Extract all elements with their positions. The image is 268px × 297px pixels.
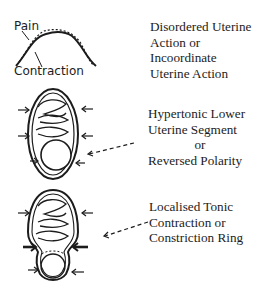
pain-contraction-curve bbox=[16, 30, 96, 67]
caption-hypertonic-lower-segment: Hypertonic Lower Uterine Segment or Reve… bbox=[148, 106, 252, 168]
pain-label: Pain bbox=[14, 19, 39, 33]
caption-line: Hypertonic Lower bbox=[148, 106, 252, 122]
caption-line: Incoordinate bbox=[150, 50, 251, 66]
caption-line: Contraction or bbox=[149, 215, 243, 231]
caption-line: Disordered Uterine bbox=[150, 19, 251, 35]
caption-line: Uterine Segment bbox=[148, 122, 252, 138]
contraction-label: Contraction bbox=[14, 64, 84, 78]
caption-line: Reversed Polarity bbox=[148, 153, 252, 169]
uterus-illustration-constriction-ring bbox=[18, 190, 148, 280]
dashed-pointer-2 bbox=[89, 143, 134, 154]
caption-disordered-uterine-action: Disordered Uterine Action or Incoordinat… bbox=[150, 19, 251, 81]
uterus-illustration-hypertonic bbox=[18, 89, 134, 179]
caption-line: Constriction Ring bbox=[149, 230, 243, 246]
caption-line: Uterine Action bbox=[150, 66, 251, 82]
caption-line: Action or bbox=[150, 35, 251, 51]
caption-constriction-ring: Localised Tonic Contraction or Constrict… bbox=[149, 199, 243, 246]
caption-line: or bbox=[148, 137, 252, 153]
caption-line: Localised Tonic bbox=[149, 199, 243, 215]
dashed-pointer-3 bbox=[105, 222, 148, 236]
